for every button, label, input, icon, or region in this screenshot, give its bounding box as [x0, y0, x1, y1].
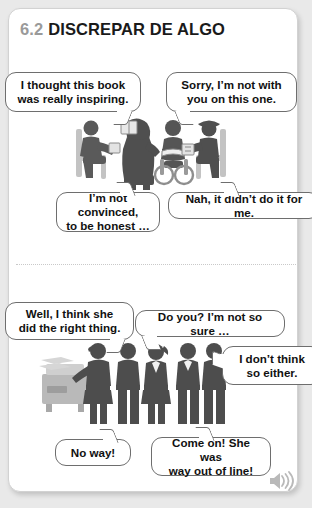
bubble-line-1: No way!: [71, 446, 115, 460]
bubble-line-1: Nah, it didn’t do it for me.: [177, 192, 311, 220]
bubble-line-1: Sorry, I’m not with: [181, 78, 281, 92]
bubble-line-1: Well, I think she: [19, 307, 121, 321]
speaker-icon: [270, 472, 293, 490]
speech-bubble-2[interactable]: Sorry, I’m not with you on this one.: [166, 72, 297, 112]
bubble-tail-cover: [199, 435, 211, 441]
bubble-line-1: I thought this book: [18, 78, 129, 92]
bubble-line-2: so either.: [239, 366, 305, 380]
office-copier-illustration: [38, 340, 228, 428]
bubble-tail-cover: [220, 354, 226, 366]
bubble-line-1: I’m not convinced,: [65, 191, 151, 219]
audio-play-button[interactable]: [268, 470, 294, 492]
speech-bubble-5[interactable]: Well, I think she did the right thing.: [5, 302, 134, 340]
bubble-tail-cover: [224, 190, 236, 196]
speech-bubble-6[interactable]: Do you? I’m not so sure …: [135, 310, 285, 337]
bubble-line-2: way out of line!: [160, 464, 262, 478]
bubble-line-2: was really inspiring.: [18, 92, 129, 106]
bubble-line-1: Do you? I’m not so sure …: [144, 310, 276, 338]
bubble-tail-cover: [178, 109, 190, 114]
bubble-line-2: you on this one.: [181, 92, 281, 106]
speech-bubble-9[interactable]: Come on! She was way out of line!: [151, 437, 271, 476]
bubble-tail-cover: [103, 437, 115, 443]
bubble-line-2: did the right thing.: [19, 321, 121, 335]
section-number: 6.2: [20, 20, 43, 38]
bubble-tail-cover: [145, 334, 157, 339]
section-divider: [16, 264, 296, 266]
bubble-tail-cover: [110, 337, 122, 342]
bubble-tail-cover: [120, 190, 132, 196]
book-club-illustration: [72, 115, 230, 193]
speech-bubble-4[interactable]: Nah, it didn’t do it for me.: [168, 192, 312, 219]
page-title: 6.2DISCREPAR DE ALGO: [20, 20, 225, 39]
bubble-line-2: to be honest …: [65, 219, 151, 233]
bubble-line-1: I don’t think: [239, 352, 305, 366]
speech-bubble-8[interactable]: No way!: [55, 439, 131, 466]
card-header: 6.2DISCREPAR DE ALGO: [8, 8, 296, 60]
speech-bubble-1[interactable]: I thought this book was really inspiring…: [5, 72, 141, 112]
speech-bubble-7[interactable]: I don’t think so either.: [222, 346, 312, 385]
bubble-tail-cover: [117, 109, 129, 114]
page-background: 6.2DISCREPAR DE ALGO: [0, 0, 312, 508]
speech-bubble-3[interactable]: I’m not convinced, to be honest …: [56, 192, 160, 232]
section-title: DISCREPAR DE ALGO: [43, 20, 225, 38]
